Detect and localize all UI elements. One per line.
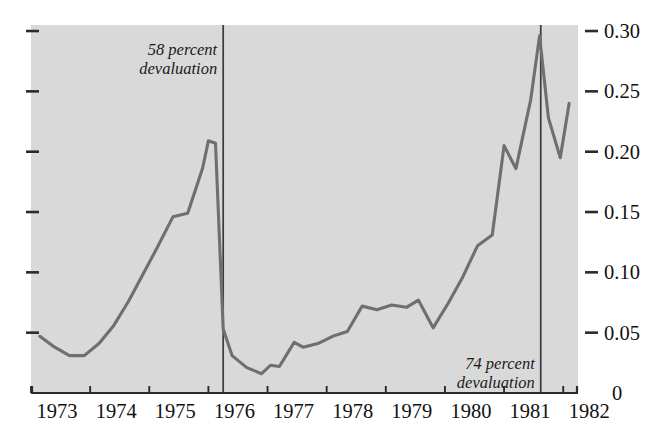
y-axis-labels: 0.300.250.200.150.100.050 bbox=[604, 20, 640, 404]
x-axis-label-1980: 1980 bbox=[450, 400, 491, 422]
line-chart: 0.300.250.200.150.100.050 19731974197519… bbox=[0, 0, 666, 445]
y-axis-right-ticks bbox=[585, 31, 598, 333]
chart-figure: 0.300.250.200.150.100.050 19731974197519… bbox=[0, 0, 666, 445]
annotation-devaluation-1981-line-1: 74 percent bbox=[465, 354, 535, 373]
x-axis-label-1981: 1981 bbox=[510, 400, 551, 422]
x-axis-label-1978: 1978 bbox=[332, 400, 373, 422]
x-axis-label-1977: 1977 bbox=[273, 400, 314, 422]
y-axis-label-0.25: 0.25 bbox=[604, 80, 640, 102]
y-axis-label-0.10: 0.10 bbox=[604, 261, 640, 283]
y-axis-label-0.30: 0.30 bbox=[604, 20, 640, 42]
x-axis-label-1976: 1976 bbox=[214, 400, 255, 422]
y-axis-label-0.20: 0.20 bbox=[604, 141, 640, 163]
annotation-devaluation-1976-line-1: 58 percent bbox=[148, 40, 218, 59]
x-axis-label-1982: 1982 bbox=[569, 400, 610, 422]
annotation-devaluation-1981-line-2: devaluation bbox=[457, 373, 535, 392]
annotation-devaluation-1976-line-2: devaluation bbox=[139, 59, 217, 78]
x-axis-label-1973: 1973 bbox=[37, 400, 78, 422]
y-axis-label-0: 0 bbox=[612, 382, 622, 404]
x-axis-label-1974: 1974 bbox=[96, 400, 137, 422]
x-axis-label-1979: 1979 bbox=[391, 400, 432, 422]
y-axis-label-0.15: 0.15 bbox=[604, 201, 640, 223]
x-axis-label-1975: 1975 bbox=[155, 400, 196, 422]
x-axis-labels: 1973197419751976197719781979198019811982 bbox=[37, 400, 610, 422]
y-axis-label-0.05: 0.05 bbox=[604, 322, 640, 344]
